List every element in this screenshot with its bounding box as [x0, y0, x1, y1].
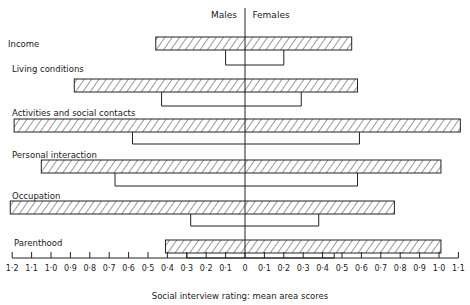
tick-label: 0	[242, 264, 247, 273]
category-label: Personal interaction	[12, 150, 97, 160]
open-bar	[115, 173, 358, 186]
category-label: Living conditions	[12, 64, 84, 74]
tick-label: 0·3	[180, 264, 193, 273]
tick-label: 0·9	[64, 264, 77, 273]
tick-label: 1·1	[25, 264, 38, 273]
open-bar	[132, 132, 359, 144]
tick-label: 0·1	[219, 264, 232, 273]
hatched-bar	[156, 37, 352, 50]
hatched-bar	[10, 201, 394, 214]
tick-label: 1·0	[433, 264, 446, 273]
open-bar	[191, 214, 319, 226]
category-label: Income	[8, 39, 39, 49]
tick-label: 0·4	[316, 264, 329, 273]
diverging-bar-chart: 1·21·11·00·90·80·70·60·50·40·30·20·100·1…	[0, 0, 470, 305]
tick-label: 1·0	[45, 264, 58, 273]
tick-label: 0·7	[103, 264, 116, 273]
x-axis-label: Social interview rating: mean area score…	[152, 291, 329, 301]
hatched-bar	[14, 119, 460, 132]
tick-label: 0·7	[374, 264, 387, 273]
tick-label: 0·5	[142, 264, 155, 273]
tick-label: 0·1	[258, 264, 271, 273]
tick-label: 0·6	[122, 264, 135, 273]
hatched-bar	[165, 240, 440, 253]
tick-label: 0·6	[355, 264, 368, 273]
open-bar	[187, 253, 334, 258]
tick-label: 1·2	[6, 264, 19, 273]
hatched-bar	[74, 79, 357, 92]
tick-label: 0·2	[277, 264, 290, 273]
tick-label: 0·8	[394, 264, 407, 273]
tick-label: 0·5	[336, 264, 349, 273]
tick-label: 0·2	[200, 264, 213, 273]
open-bar	[162, 92, 302, 106]
tick-label: 1·1	[452, 264, 465, 273]
category-label: Activities and social contacts	[12, 108, 136, 118]
category-label: Parenthood	[14, 238, 62, 248]
tick-label: 0·8	[83, 264, 96, 273]
females-side-label: Females	[252, 10, 290, 20]
hatched-bar	[41, 160, 441, 173]
x-axis: 1·21·11·00·90·80·70·60·50·40·30·20·100·1…	[6, 252, 465, 273]
tick-label: 0·9	[413, 264, 426, 273]
category-label: Occupation	[12, 191, 60, 201]
tick-label: 0·4	[161, 264, 174, 273]
males-side-label: Males	[211, 10, 237, 20]
tick-label: 0·3	[297, 264, 310, 273]
category-labels: IncomeLiving conditionsActivities and so…	[8, 39, 136, 248]
open-bar	[226, 50, 284, 65]
